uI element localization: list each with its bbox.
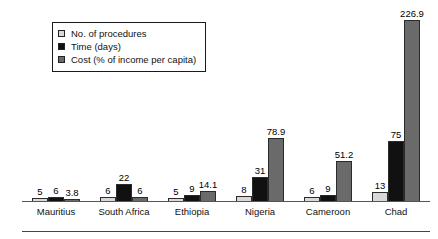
bar-value-label: 8 — [241, 184, 246, 195]
bar-value-label: 6 — [137, 185, 142, 196]
bar-value-label: 22 — [119, 172, 130, 183]
bar-column: 6 — [100, 8, 116, 202]
bar-column: 6 — [48, 8, 64, 202]
bar — [268, 138, 284, 202]
x-axis-category-label: Chad — [362, 206, 430, 218]
bar-group: 83178.9 — [236, 8, 284, 202]
bar-column: 8 — [236, 8, 252, 202]
bar-value-label: 14.1 — [199, 179, 218, 190]
bar-group: 6951.2 — [304, 8, 352, 202]
bar-value-label: 9 — [189, 183, 194, 194]
bar-value-label: 6 — [309, 185, 314, 196]
bar-column: 5 — [32, 8, 48, 202]
bar-group: 6226 — [100, 8, 148, 202]
bar-column: 6 — [132, 8, 148, 202]
bar-column: 31 — [252, 8, 268, 202]
x-axis-category-label: South Africa — [90, 206, 158, 218]
x-axis-category-label: Ethiopia — [158, 206, 226, 218]
bar-group: 563.8 — [32, 8, 80, 202]
bar-value-label: 226.9 — [400, 8, 424, 19]
bar-column: 3.8 — [64, 8, 80, 202]
bar — [388, 141, 404, 202]
x-axis-category-label: Mauritius — [22, 206, 90, 218]
bottom-rule — [22, 231, 430, 232]
bar — [252, 177, 268, 202]
bar-group: 5914.1 — [168, 8, 216, 202]
bar-chart: No. of procedures Time (days) Cost (% of… — [0, 0, 438, 239]
bar-value-label: 9 — [325, 183, 330, 194]
x-axis-category-label: Nigeria — [226, 206, 294, 218]
bar-value-label: 31 — [255, 165, 266, 176]
bar-value-label: 6 — [53, 185, 58, 196]
bar-column: 14.1 — [200, 8, 216, 202]
bar-value-label: 51.2 — [335, 149, 354, 160]
bar-value-label: 75 — [391, 129, 402, 140]
x-axis-baseline — [22, 201, 430, 202]
bar-column: 51.2 — [336, 8, 352, 202]
bar — [404, 20, 420, 202]
bar-column: 5 — [168, 8, 184, 202]
bar-value-label: 6 — [105, 185, 110, 196]
bar-group: 1375226.9 — [372, 8, 420, 202]
bar-column: 75 — [388, 8, 404, 202]
bar-column: 22 — [116, 8, 132, 202]
bar-value-label: 5 — [173, 186, 178, 197]
bar — [116, 184, 132, 202]
bar-column: 9 — [320, 8, 336, 202]
plot-area: 563.862265914.183178.96951.21375226.9 — [22, 8, 430, 202]
bar-column: 9 — [184, 8, 200, 202]
bar-value-label: 78.9 — [267, 126, 286, 137]
bar-column: 226.9 — [404, 8, 420, 202]
bar — [336, 161, 352, 202]
bar-column: 13 — [372, 8, 388, 202]
bar-value-label: 3.8 — [65, 187, 78, 198]
bar-value-label: 5 — [37, 186, 42, 197]
x-axis-category-label: Cameroon — [294, 206, 362, 218]
bar-value-label: 13 — [375, 180, 386, 191]
bar-column: 6 — [304, 8, 320, 202]
bar-column: 78.9 — [268, 8, 284, 202]
